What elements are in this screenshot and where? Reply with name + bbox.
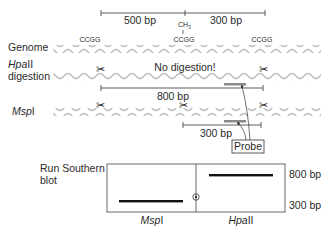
- mspi-label: MspI: [12, 105, 35, 117]
- probe-callout: Probe: [232, 86, 264, 153]
- fragment-300bp-label: 300 bp: [200, 127, 232, 139]
- scissors-icon: ✂: [96, 99, 105, 111]
- southern-blot-title-2: blot: [40, 174, 57, 186]
- ccgg-site-label-1: CCGG: [80, 36, 101, 43]
- hpaii-digestion-label: digestion: [8, 70, 50, 82]
- scissors-icon: ✂: [96, 63, 105, 75]
- southern-blot-panel: [107, 164, 285, 212]
- scale-300bp-label: 300 bp: [210, 14, 242, 26]
- ccgg-site-label-2: CCGG: [174, 36, 195, 43]
- methyl-group-marker: CH3: [178, 21, 191, 34]
- scissors-icon: ✂: [259, 63, 268, 75]
- probe-label: Probe: [234, 140, 262, 152]
- lane-hpaii-label: HpaII: [228, 214, 253, 226]
- scale-500bp-label: 500 bp: [124, 14, 156, 26]
- marker-800bp-label: 800 bp: [289, 168, 321, 180]
- probe-bar-hpaii: [224, 83, 246, 86]
- genome-dna-strand: [53, 45, 321, 53]
- ccgg-site-label-3: CCGG: [252, 36, 273, 43]
- mspi-band-300bp: [119, 200, 183, 202]
- hpaii-dna-strand: [53, 73, 321, 81]
- southern-blot-title-1: Run Southern: [40, 162, 105, 174]
- no-digestion-note: No digestion!: [154, 61, 215, 73]
- genome-label: Genome: [8, 41, 48, 53]
- hpaii-band-800bp: [209, 174, 273, 176]
- methylation-digestion-diagram: 500 bp 300 bp CH3 CCGG CCGG CCGG Genome …: [0, 0, 329, 233]
- methyl-label: CH3: [178, 21, 191, 30]
- scissors-icon: ✂: [259, 99, 268, 111]
- scissors-icon: ✂: [179, 99, 188, 111]
- lane-mspi-label: MspI: [141, 214, 164, 226]
- marker-300bp-label: 300 bp: [289, 199, 321, 211]
- hpaii-label: HpaII: [8, 58, 33, 70]
- probe-bar-mspi: [224, 120, 246, 123]
